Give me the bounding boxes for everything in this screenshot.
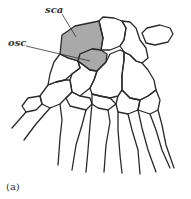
osc-label: osc (8, 37, 26, 48)
wrist-diagram: sca osc (a) (0, 0, 191, 199)
panel-label: (a) (6, 181, 20, 192)
wrist-bones-drawing (0, 0, 191, 199)
sca-label: sca (45, 4, 63, 15)
